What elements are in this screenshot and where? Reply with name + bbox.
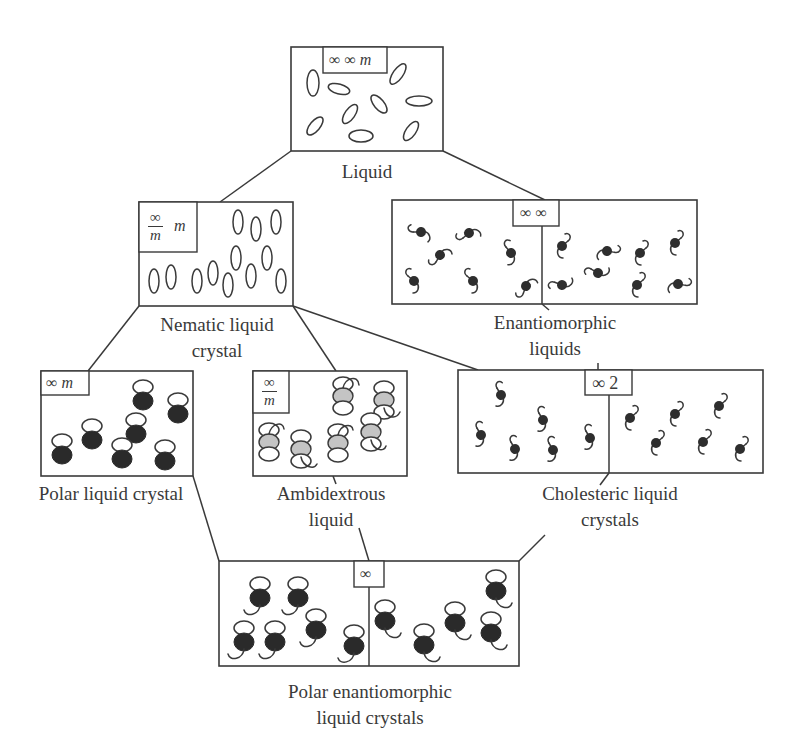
caption-line-1: Ambidextrous	[277, 481, 386, 507]
caption-line-2: liquid	[277, 507, 386, 533]
caption-line-1: Polar enantiomorphic	[288, 679, 452, 705]
caption-cholesteric: Cholesteric liquid crystals	[542, 481, 678, 533]
caption-line-1: Cholesteric liquid	[542, 481, 678, 507]
symmetry-label-liquid: ∞ ∞ m	[329, 52, 371, 68]
fraction-numerator: ∞	[148, 210, 163, 227]
caption-line-1: Nematic liquid	[160, 312, 273, 338]
symmetry-label-ambidextrous: ∞ m	[262, 375, 277, 408]
symmetry-mirror: m	[61, 374, 73, 391]
diagram-canvas	[0, 0, 796, 741]
fraction-denominator: m	[264, 392, 275, 408]
caption-nematic: Nematic liquid crystal	[160, 312, 273, 364]
symmetry-mirror: m	[360, 51, 372, 68]
fraction-numerator: ∞	[262, 375, 277, 392]
caption-line-2: liquids	[494, 336, 616, 362]
symmetry-suffix-nematic: m	[174, 218, 186, 234]
symmetry-label-cholesteric: ∞ 2	[592, 374, 618, 392]
caption-liquid: Liquid	[342, 159, 393, 185]
caption-polar-lc: Polar liquid crystal	[39, 481, 184, 507]
symmetry-label-polar-lc: ∞ m	[46, 375, 73, 391]
caption-line-1: Enantiomorphic	[494, 310, 616, 336]
symmetry-label-nematic: ∞ m	[148, 210, 163, 243]
symmetry-label-polar-enantiomorphic: ∞	[360, 566, 371, 582]
symmetry-label-enantiomorphic: ∞ ∞	[520, 205, 547, 221]
caption-line-2: crystal	[160, 338, 273, 364]
fraction-denominator: m	[150, 227, 161, 243]
symmetry-infinity: ∞ ∞	[329, 51, 356, 68]
caption-line-2: liquid crystals	[288, 705, 452, 731]
caption-ambidextrous: Ambidextrous liquid	[277, 481, 386, 533]
caption-line-2: crystals	[542, 507, 678, 533]
caption-polar-enantiomorphic: Polar enantiomorphic liquid crystals	[288, 679, 452, 731]
caption-enantiomorphic: Enantiomorphic liquids	[494, 310, 616, 362]
symmetry-infinity: ∞	[46, 374, 57, 391]
